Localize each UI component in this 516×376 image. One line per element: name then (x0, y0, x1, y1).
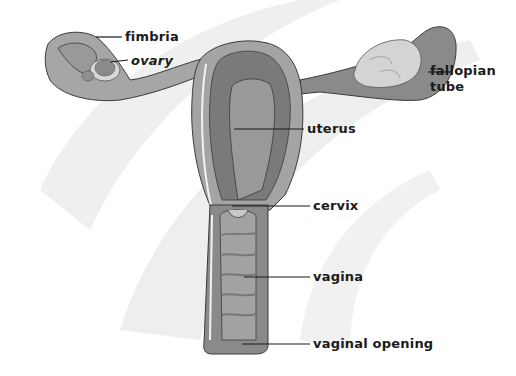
label-tube: tube (430, 80, 464, 94)
label-ovary: ovary (131, 54, 173, 68)
label-vagina: vagina (313, 270, 363, 284)
label-uterus: uterus (307, 122, 356, 136)
anatomy-illustration (0, 0, 516, 376)
vagina-canal (204, 205, 268, 354)
reproductive-system-diagram: fimbria ovary fallopian tube uterus cerv… (0, 0, 516, 376)
label-fallopian: fallopian (430, 64, 496, 78)
uterus-body (192, 41, 303, 210)
label-vaginal-opening: vaginal opening (313, 337, 433, 351)
label-fimbria: fimbria (125, 30, 179, 44)
label-cervix: cervix (313, 199, 358, 213)
